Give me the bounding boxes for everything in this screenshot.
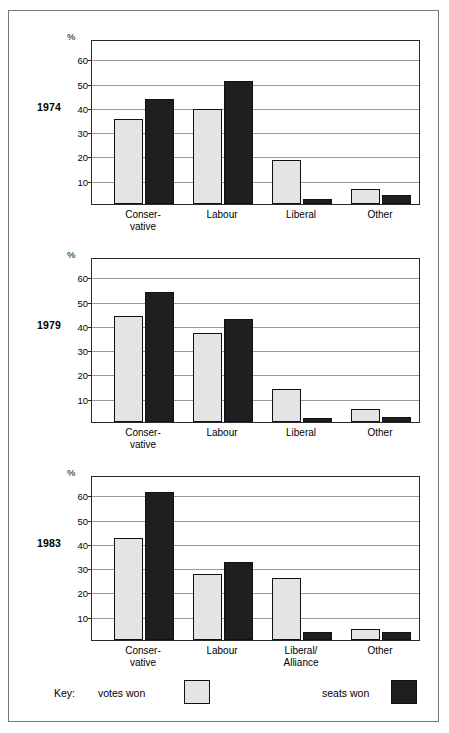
x-axis-label-line: vative [100,221,186,233]
y-tick-label-40: 40 [77,103,88,114]
y-tick-mark-20 [88,593,92,594]
y-axis-unit-label: % [67,31,75,42]
bar-1974-seats [382,195,411,204]
y-tick-label-20: 20 [77,588,88,599]
x-axis-label-line: Other [337,427,423,439]
x-axis-label-line: Liberal [258,209,344,221]
plot-area-1983: 102030405060 [91,476,420,641]
y-tick-label-30: 30 [77,564,88,575]
y-tick-label-30: 30 [77,128,88,139]
legend-swatch-votes-won [184,680,210,704]
bar-1983-seats [382,632,411,640]
bar-1979-votes [351,409,380,422]
bar-1983-votes [193,574,222,640]
y-tick-mark-20 [88,375,92,376]
chart-panel-1979: 1979%102030405060Conser-vativeLabourLibe… [9,233,440,448]
y-tick-mark-10 [88,400,92,401]
x-axis-label: Liberal [258,427,344,439]
y-tick-mark-40 [88,109,92,110]
bar-group [106,41,182,204]
bar-1974-votes [351,189,380,204]
x-axis-label-line: Other [337,209,423,221]
bar-1983-votes [114,538,143,640]
bar-group [343,41,419,204]
chart-legend: Key: votes won seats won [9,679,440,719]
bar-group [264,41,340,204]
x-axis-label-line: Liberal/ [258,645,344,657]
plot-area-1974: 102030405060 [91,40,420,205]
y-tick-mark-50 [88,303,92,304]
y-tick-mark-30 [88,351,92,352]
bar-1983-votes [351,629,380,640]
bar-group [185,259,261,422]
bar-group [264,259,340,422]
x-axis-label: Liberal [258,209,344,221]
bar-group [264,477,340,640]
x-axis-label: Labour [179,427,265,439]
y-tick-label-20: 20 [77,370,88,381]
legend-key-word: Key: [54,687,75,699]
y-tick-label-60: 60 [77,491,88,502]
bar-1974-votes [193,109,222,204]
x-axis-label: Conser-vative [100,645,186,668]
bar-1983-seats [303,632,332,640]
y-tick-mark-60 [88,496,92,497]
x-axis-label: Liberal/Alliance [258,645,344,668]
bar-1974-seats [224,81,253,204]
y-tick-label-40: 40 [77,321,88,332]
y-tick-mark-30 [88,569,92,570]
y-tick-mark-50 [88,85,92,86]
bar-1979-seats [224,319,253,422]
x-axis-label-line: Other [337,645,423,657]
bar-1983-seats [145,492,174,640]
y-tick-label-50: 50 [77,515,88,526]
x-axis-label-line: vative [100,439,186,451]
bar-1979-votes [193,333,222,422]
chart-panel-1983: 1983%102030405060Conser-vativeLabourLibe… [9,451,440,666]
x-axis-label-line: Alliance [258,657,344,669]
x-axis-label-line: Conser- [100,645,186,657]
y-tick-mark-60 [88,60,92,61]
y-tick-label-10: 10 [77,176,88,187]
plot-area-1979: 102030405060 [91,258,420,423]
y-tick-label-60: 60 [77,273,88,284]
year-label-1979: 1979 [23,319,75,331]
y-tick-label-30: 30 [77,346,88,357]
bar-group [185,41,261,204]
legend-swatch-seats-won [391,680,417,704]
x-axis-label: Labour [179,209,265,221]
y-tick-mark-20 [88,157,92,158]
x-axis-label-line: Conser- [100,209,186,221]
bar-group [343,259,419,422]
bar-1974-seats [303,199,332,204]
y-tick-label-20: 20 [77,152,88,163]
y-tick-mark-40 [88,327,92,328]
bar-group [343,477,419,640]
x-axis-label: Other [337,209,423,221]
x-axis-label: Conser-vative [100,427,186,450]
x-axis-label-line: Labour [179,645,265,657]
bar-1974-seats [145,99,174,204]
bar-1979-seats [382,417,411,422]
x-axis-label-line: Conser- [100,427,186,439]
bar-group [106,477,182,640]
y-tick-label-50: 50 [77,79,88,90]
legend-label-seats-won: seats won [322,687,369,699]
y-tick-mark-10 [88,182,92,183]
y-tick-label-50: 50 [77,297,88,308]
chart-panel-1974: 1974%102030405060Conser-vativeLabourLibe… [9,15,440,230]
bar-1974-votes [272,160,301,204]
y-tick-label-60: 60 [77,55,88,66]
bar-1979-votes [114,316,143,422]
y-axis-unit-label: % [67,467,75,478]
y-tick-label-10: 10 [77,394,88,405]
bar-group [185,477,261,640]
x-axis-label-line: vative [100,657,186,669]
y-tick-mark-50 [88,521,92,522]
year-label-1983: 1983 [23,537,75,549]
bar-1979-seats [145,292,174,422]
y-tick-label-10: 10 [77,612,88,623]
x-axis-label: Other [337,427,423,439]
x-axis-label: Labour [179,645,265,657]
y-tick-mark-30 [88,133,92,134]
